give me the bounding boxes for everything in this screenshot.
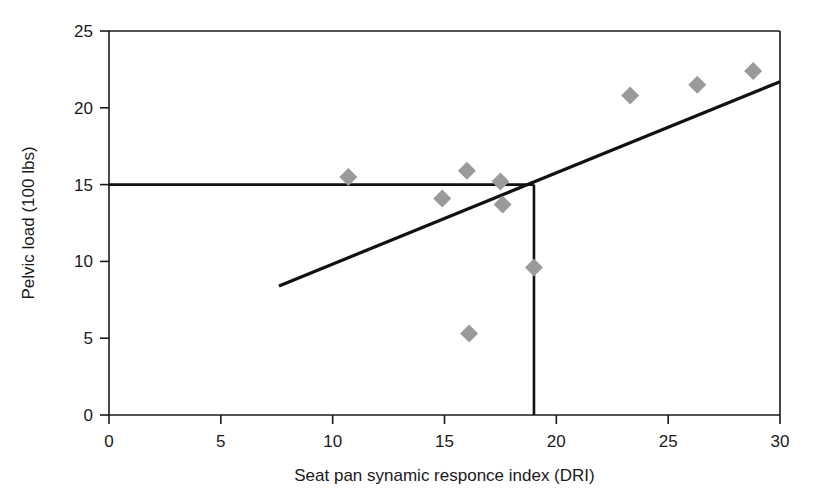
data-point-marker	[744, 62, 762, 80]
y-axis-tick-labels: 0510152025	[74, 22, 93, 425]
x-tick-label: 25	[659, 432, 678, 451]
y-axis-ticks	[100, 31, 109, 415]
x-axis-ticks	[109, 415, 780, 424]
x-tick-label: 15	[435, 432, 454, 451]
x-axis-tick-labels: 051015202530	[104, 432, 789, 451]
y-axis-title: Pelvic load (100 lbs)	[19, 146, 38, 299]
chart-figure: 0510152025 051015202530 Seat pan synamic…	[0, 0, 823, 502]
y-tick-label: 0	[84, 406, 93, 425]
plot-frame	[109, 31, 780, 415]
x-tick-label: 10	[323, 432, 342, 451]
y-tick-label: 20	[74, 99, 93, 118]
y-tick-label: 5	[84, 329, 93, 348]
data-point-marker	[460, 325, 478, 343]
data-point-marker	[688, 76, 706, 94]
y-tick-label: 15	[74, 176, 93, 195]
reference-lines-group	[109, 185, 534, 415]
x-tick-label: 0	[104, 432, 113, 451]
data-point-marker	[525, 259, 543, 277]
data-point-marker	[458, 162, 476, 180]
data-point-marker	[491, 173, 509, 191]
x-tick-label: 30	[771, 432, 790, 451]
x-axis-title: Seat pan synamic responce index (DRI)	[294, 466, 594, 485]
data-point-marker	[433, 189, 451, 207]
scatter-plot-svg: 0510152025 051015202530 Seat pan synamic…	[0, 0, 823, 502]
data-point-marker	[339, 168, 357, 186]
y-tick-label: 10	[74, 252, 93, 271]
x-tick-label: 5	[216, 432, 225, 451]
y-tick-label: 25	[74, 22, 93, 41]
data-point-markers	[339, 62, 762, 343]
data-point-marker	[621, 87, 639, 105]
x-tick-label: 20	[547, 432, 566, 451]
